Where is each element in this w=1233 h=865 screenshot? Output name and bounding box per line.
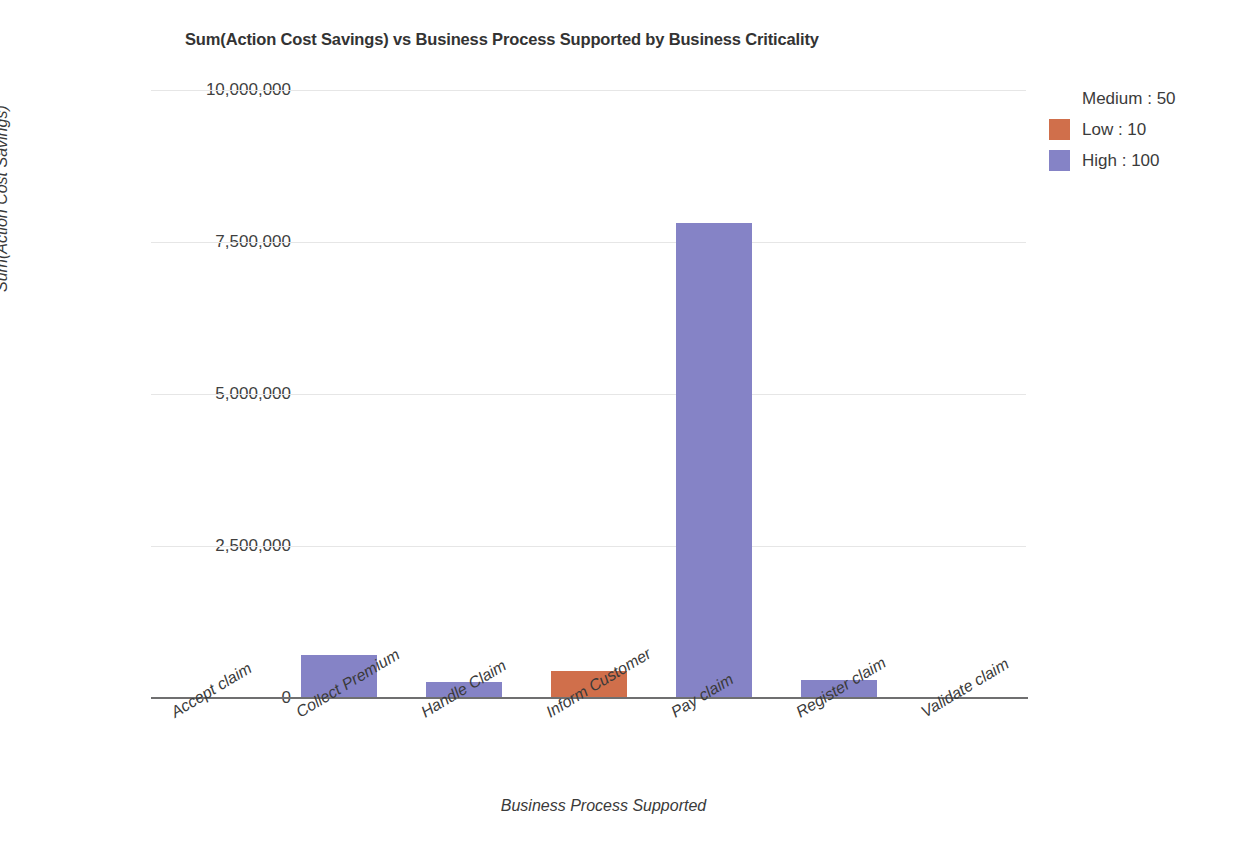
legend-label: Medium : 50 bbox=[1082, 89, 1176, 109]
y-axis-title: Sum(Action Cost Savings) bbox=[0, 0, 11, 292]
legend-item[interactable]: High : 100 bbox=[1049, 145, 1176, 176]
bar-stack[interactable] bbox=[301, 90, 377, 698]
bar-segment[interactable] bbox=[676, 128, 752, 223]
legend-swatch bbox=[1049, 88, 1070, 109]
bar-stack[interactable] bbox=[676, 90, 752, 698]
chart-legend: Medium : 50Low : 10High : 100 bbox=[1049, 83, 1176, 176]
bar-stack[interactable] bbox=[176, 90, 252, 698]
legend-item[interactable]: Medium : 50 bbox=[1049, 83, 1176, 114]
legend-swatch bbox=[1049, 150, 1070, 171]
bar-segment[interactable] bbox=[301, 561, 377, 655]
legend-item[interactable]: Low : 10 bbox=[1049, 114, 1176, 145]
plot-area: 10,000,0007,500,0005,000,0002,500,0000 bbox=[151, 90, 1026, 698]
chart-container: Sum(Action Cost Savings) vs Business Pro… bbox=[0, 0, 1233, 865]
legend-swatch bbox=[1049, 119, 1070, 140]
bar-stack[interactable] bbox=[426, 90, 502, 698]
bars-layer bbox=[151, 90, 1026, 698]
chart-title: Sum(Action Cost Savings) vs Business Pro… bbox=[185, 30, 819, 49]
legend-label: High : 100 bbox=[1082, 151, 1160, 171]
x-axis-title: Business Process Supported bbox=[0, 797, 1233, 815]
bar-stack[interactable] bbox=[801, 90, 877, 698]
x-axis-title-text: Business Process Supported bbox=[501, 797, 706, 814]
bar-stack[interactable] bbox=[926, 90, 1002, 698]
legend-label: Low : 10 bbox=[1082, 120, 1146, 140]
bar-stack[interactable] bbox=[551, 90, 627, 698]
bar-segment[interactable] bbox=[676, 223, 752, 698]
